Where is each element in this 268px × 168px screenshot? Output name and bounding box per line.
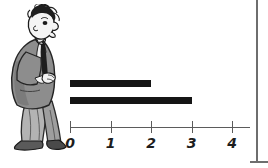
screenshot-root: 01234: [0, 0, 268, 168]
bar-bottom: [70, 97, 192, 104]
x-tick-0: [70, 121, 71, 133]
bar-top: [70, 80, 151, 87]
x-tick-label-4: 4: [221, 135, 243, 151]
x-tick-1: [111, 121, 112, 133]
x-tick-label-3: 3: [181, 135, 203, 151]
x-axis-line: [70, 127, 250, 128]
x-tick-label-0: 0: [59, 135, 81, 151]
page-frame-vertical-line: [256, 0, 258, 163]
x-tick-label-1: 1: [100, 135, 122, 151]
x-tick-2: [151, 121, 152, 133]
page-frame-horizontal-line: [250, 161, 268, 163]
bar-chart: 01234: [0, 0, 256, 168]
x-tick-4: [232, 121, 233, 133]
x-tick-label-2: 2: [140, 135, 162, 151]
x-tick-3: [192, 121, 193, 133]
